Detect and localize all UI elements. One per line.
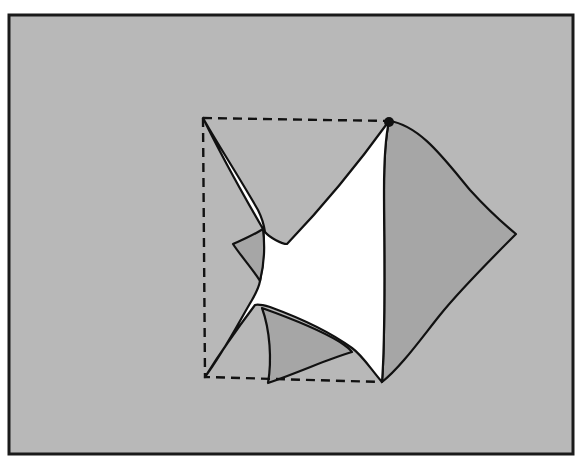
diagram-canvas	[0, 0, 581, 460]
top-right-corner-dot	[384, 117, 394, 127]
